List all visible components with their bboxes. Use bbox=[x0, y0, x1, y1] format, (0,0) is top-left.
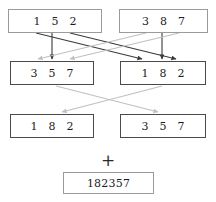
top-right-box: 3 8 7 bbox=[119, 9, 208, 33]
digit: 1 bbox=[25, 121, 43, 132]
plus-operator: + bbox=[0, 152, 216, 169]
digit: 2 bbox=[172, 68, 190, 79]
digit: 5 bbox=[43, 68, 61, 79]
digit: 3 bbox=[136, 121, 154, 132]
middle-left-digits: 3 5 7 bbox=[11, 68, 93, 79]
result-value: 182357 bbox=[87, 178, 130, 189]
top-left-digits: 1 5 2 bbox=[9, 16, 101, 27]
arrow-midright-to-bottomleft bbox=[62, 86, 162, 112]
result-box: 182357 bbox=[63, 172, 154, 194]
arrow-topright7-to-midleft7 bbox=[70, 33, 179, 59]
digit: 1 bbox=[28, 16, 46, 27]
digit: 8 bbox=[43, 121, 61, 132]
digit: 8 bbox=[155, 16, 173, 27]
arrow-topright3-to-midleft3 bbox=[38, 33, 146, 59]
digit: 7 bbox=[173, 16, 191, 27]
arrow-topleft2-to-midright2 bbox=[70, 33, 176, 59]
digit: 7 bbox=[61, 68, 79, 79]
digit: 8 bbox=[154, 68, 172, 79]
digit: 2 bbox=[64, 16, 82, 27]
digit: 7 bbox=[172, 121, 190, 132]
bottom-left-digits: 1 8 2 bbox=[11, 121, 93, 132]
top-right-digits: 3 8 7 bbox=[120, 16, 207, 27]
digit: 5 bbox=[154, 121, 172, 132]
digit: 5 bbox=[46, 16, 64, 27]
middle-right-digits: 1 8 2 bbox=[121, 68, 205, 79]
bottom-left-box: 1 8 2 bbox=[10, 114, 94, 138]
digit: 3 bbox=[137, 16, 155, 27]
arrow-topleft1-to-midright1 bbox=[36, 33, 142, 59]
bottom-right-box: 3 5 7 bbox=[120, 114, 206, 138]
top-left-box: 1 5 2 bbox=[8, 9, 102, 33]
digit: 1 bbox=[136, 68, 154, 79]
digit: 3 bbox=[25, 68, 43, 79]
middle-right-box: 1 8 2 bbox=[120, 61, 206, 85]
middle-left-box: 3 5 7 bbox=[10, 61, 94, 85]
bottom-right-digits: 3 5 7 bbox=[121, 121, 205, 132]
diagram-canvas: 1 5 2 3 8 7 3 5 7 1 8 2 1 8 2 bbox=[0, 0, 216, 202]
arrow-midleft-to-bottomright bbox=[56, 86, 158, 112]
digit: 2 bbox=[61, 121, 79, 132]
